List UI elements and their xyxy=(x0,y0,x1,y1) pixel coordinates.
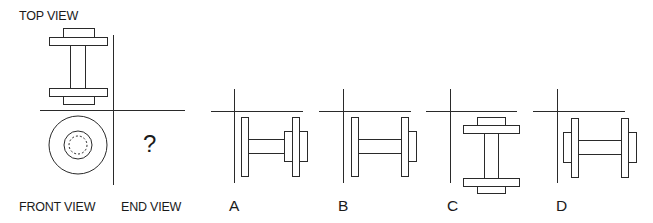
option-a-drawing[interactable] xyxy=(211,89,308,183)
option-b-label[interactable]: B xyxy=(338,197,348,215)
front-view-drawing xyxy=(49,116,107,174)
orthographic-projection-diagram xyxy=(0,0,653,223)
top-view-label: TOP VIEW xyxy=(19,9,78,23)
option-d-label[interactable]: D xyxy=(556,197,567,215)
option-c-label[interactable]: C xyxy=(447,197,458,215)
option-c-drawing[interactable] xyxy=(426,89,520,194)
projection-axes xyxy=(40,35,185,185)
question-mark: ? xyxy=(143,130,156,158)
option-d-drawing[interactable] xyxy=(533,89,637,183)
front-view-label: FRONT VIEW xyxy=(19,200,95,214)
end-view-label: END VIEW xyxy=(121,200,181,214)
option-a-label[interactable]: A xyxy=(229,197,239,215)
option-b-drawing[interactable] xyxy=(319,89,417,183)
top-view-drawing xyxy=(50,29,108,105)
